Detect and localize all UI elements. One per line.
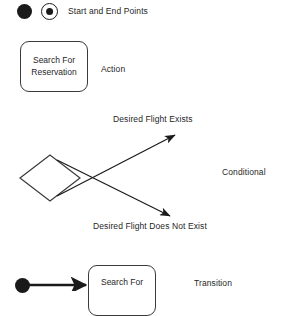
legend-label-action: Action	[101, 64, 125, 75]
conditional-diamond-shape	[20, 155, 80, 201]
end-point-icon	[41, 3, 58, 20]
legend-label-start-end: Start and End Points	[68, 6, 148, 17]
transition-shape-label: Search For	[101, 277, 143, 289]
branch-false-arrow	[57, 160, 170, 216]
branch-false-label: Desired Flight Does Not Exist	[93, 221, 207, 232]
start-point-icon	[17, 4, 32, 19]
legend-label-transition: Transition	[194, 278, 232, 289]
legend-label-conditional: Conditional	[222, 167, 266, 178]
transition-start-point-icon	[15, 278, 30, 293]
branch-true-label: Desired Flight Exists	[113, 114, 193, 125]
action-shape-label: Search For Reservation	[31, 55, 76, 78]
action-shape: Search For Reservation	[20, 41, 88, 92]
branch-true-arrow	[57, 135, 175, 196]
transition-shape: Search For	[88, 265, 156, 316]
